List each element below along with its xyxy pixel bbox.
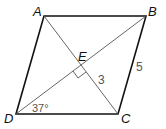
measure-ce: 3 (98, 73, 105, 87)
vertex-d-label: D (4, 111, 13, 126)
vertex-c-label: C (121, 111, 131, 126)
rhombus-diagram: A B C D E 3 5 37° (0, 0, 166, 129)
angle-d-measure: 37° (32, 102, 49, 114)
vertex-a-label: A (32, 4, 42, 19)
diagram-canvas: A B C D E 3 5 37° (0, 0, 166, 129)
measure-bc: 5 (136, 60, 143, 74)
diagonal-bd (16, 16, 146, 114)
right-angle-marker (73, 71, 86, 78)
vertex-b-label: B (148, 4, 157, 19)
vertex-e-label: E (78, 49, 87, 64)
